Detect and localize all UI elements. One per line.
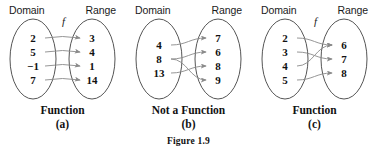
domain-value: 7: [30, 74, 36, 86]
range-value: 7: [215, 32, 221, 44]
domain-value: 13: [154, 67, 166, 79]
panel-c: Domain Range 2345678f Function (c): [252, 0, 377, 133]
domain-value: 5: [30, 46, 36, 58]
range-value: 4: [89, 46, 95, 58]
panel-a: Domain Range 25−1734114f Function (a): [0, 0, 125, 133]
mapping-arrow: [171, 66, 206, 73]
mapping-arrow: [171, 38, 206, 45]
domain-value: 8: [156, 53, 162, 65]
domain-oval: [10, 19, 56, 99]
range-oval: [69, 19, 115, 99]
figure-1-9: Domain Range 25−1734114f Function (a) Do…: [0, 0, 377, 155]
panel-a-mapping-diagram: 25−1734114f: [0, 17, 125, 103]
panel-a-letter: (a): [0, 117, 125, 131]
range-value: 3: [89, 32, 95, 44]
range-value: 8: [215, 60, 221, 72]
domain-value: 2: [282, 32, 288, 44]
panel-b-letter: (b): [126, 117, 251, 131]
mapping-arrow: [45, 37, 80, 39]
function-symbol-label: f: [314, 17, 319, 27]
panel-c-verdict: Function: [252, 103, 377, 117]
figure-caption: Figure 1.9: [0, 136, 377, 146]
range-value: 6: [341, 39, 347, 51]
domain-value: −1: [27, 60, 39, 72]
function-symbol-label: f: [62, 17, 67, 27]
mapping-arrow: [297, 73, 332, 80]
mapping-arrow: [297, 45, 332, 66]
range-value: 9: [215, 74, 221, 86]
range-value: 1: [89, 60, 95, 72]
range-value: 8: [341, 67, 347, 79]
panel-b: Domain Range 48137689 Not a Function (b): [126, 0, 251, 133]
domain-value: 4: [156, 39, 162, 51]
range-value: 14: [87, 74, 99, 86]
domain-value: 4: [282, 60, 288, 72]
panel-a-verdict: Function: [0, 103, 125, 117]
mapping-arrow: [45, 79, 80, 81]
domain-value: 5: [282, 74, 288, 86]
panel-b-mapping-diagram: 48137689: [126, 17, 251, 103]
mapping-arrow: [45, 65, 80, 67]
panel-c-letter: (c): [252, 117, 377, 131]
domain-value: 3: [282, 46, 288, 58]
domain-value: 2: [30, 32, 36, 44]
mapping-arrow: [171, 52, 206, 59]
panel-b-verdict: Not a Function: [126, 103, 251, 117]
domain-oval: [262, 19, 308, 99]
panel-b-caption: Not a Function (b): [126, 103, 251, 131]
range-value: 6: [215, 46, 221, 58]
range-oval: [195, 19, 241, 99]
mapping-arrow: [45, 51, 80, 53]
panel-c-mapping-diagram: 2345678f: [252, 17, 377, 103]
range-value: 7: [341, 53, 347, 65]
panel-a-caption: Function (a): [0, 103, 125, 131]
diagram-panels: Domain Range 25−1734114f Function (a) Do…: [0, 0, 377, 133]
panel-c-caption: Function (c): [252, 103, 377, 131]
mapping-arrow: [297, 38, 332, 45]
